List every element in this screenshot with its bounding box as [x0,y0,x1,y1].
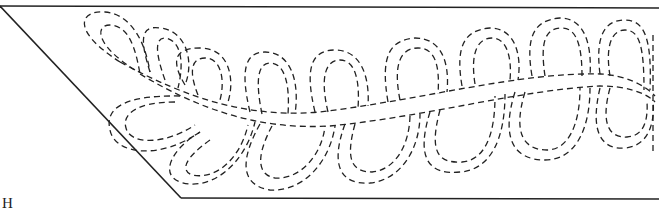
upper-loop-2-outer [143,28,188,85]
border-diagonal-edge [0,6,181,198]
upper-loop-7-inner [474,38,511,84]
lower-loop-2-inner [186,125,248,176]
upper-loop-3-outer [177,48,231,102]
lower-loop-6-outer [509,88,590,160]
upper-loop-3-inner [192,58,222,100]
lower-loop-5-outer [424,94,505,172]
lower-loop-2-outer [170,122,255,184]
spine-lower-line [140,74,655,127]
upper-loop-5-inner [324,60,358,112]
upper-loop-5-outer [310,50,368,112]
lower-loop-7-inner [606,88,647,137]
upper-loop-4-inner [258,63,288,114]
spine [120,62,655,127]
border-bottom-edge [181,198,659,199]
upper-loop-2-inner [158,38,182,88]
lower-loop-6-inner [520,88,580,150]
upper-loop-4-outer [245,52,296,114]
upper-loop-1-inner [101,25,140,74]
lower-loop-5-inner [435,96,495,162]
border [0,6,659,199]
upper-loop-8-inner [543,28,582,76]
lower-loop-7-outer [596,88,653,148]
lower-loop-4-inner [350,114,410,172]
upper-loop-8-outer [530,18,591,76]
border-top-edge [0,6,659,8]
spine-upper-line [120,62,655,113]
quilting-pattern-diagram [0,0,659,208]
upper-loop-9-inner [608,30,644,90]
lower-loop-3-outer [246,124,335,190]
upper-loop-1-outer [84,12,150,72]
lower-loop-1-inner [125,102,195,140]
upper-loop-6-inner [397,48,438,100]
caption-fragment: H [2,196,13,208]
lower-loop-1-outer [109,96,200,151]
upper-feather-loops [84,12,650,114]
